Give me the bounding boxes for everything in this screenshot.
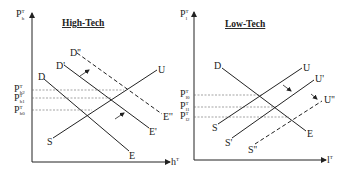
y-axis-label: PTl: [180, 8, 189, 21]
curve-start-label: D: [214, 60, 221, 71]
shift-arrow-icon: [283, 85, 291, 91]
curve-end-label: U: [303, 62, 311, 73]
low-tech-panel: PTl lT Low-Tech PTl0 PTl1 PTl2 D E S U S…: [180, 8, 335, 165]
curve-end-label: E': [149, 126, 157, 137]
panel-title: Low-Tech: [225, 19, 266, 29]
curve-end-label: E: [307, 128, 313, 139]
curve-end-label: U': [315, 73, 324, 84]
curve-end-label: E'': [163, 111, 173, 122]
curve-start-label: S: [212, 122, 218, 133]
curve-end-label: U'': [324, 94, 335, 105]
x-axis-label: lT: [327, 154, 333, 165]
high-tech-panel: PTh hT High-Tech PTh2 PTh1 PTh0 D E D' E…: [14, 8, 179, 167]
curve-start-label: D: [38, 71, 45, 82]
curve-end-label: E: [129, 150, 135, 161]
curve-start-label: D': [56, 60, 65, 71]
supply-curve-su: [53, 70, 157, 138]
panel-title: High-Tech: [62, 18, 105, 28]
curve-start-label: S'': [248, 144, 257, 155]
demand-curve-d: [222, 68, 306, 131]
supply-curve-su: [218, 68, 302, 124]
price-level-label: PTl2: [180, 110, 190, 122]
price-level-label: PTl0: [180, 88, 190, 100]
price-level-label: PTh0: [14, 104, 25, 116]
shift-arrow-icon: [115, 113, 124, 119]
curve-end-label: U: [158, 64, 166, 75]
curve-start-label: S: [47, 136, 53, 147]
y-axis-label: PTh: [16, 8, 25, 21]
shift-arrow-icon: [80, 70, 89, 76]
supply-curve-su-prime: [232, 80, 314, 138]
curve-start-label: D'': [70, 47, 81, 58]
shift-arrow-icon: [311, 94, 317, 99]
curve-start-label: S': [225, 137, 233, 148]
x-axis-label: hT: [171, 156, 179, 167]
diagram-canvas: PTh hT High-Tech PTh2 PTh1 PTh0 D E D' E…: [0, 0, 355, 177]
